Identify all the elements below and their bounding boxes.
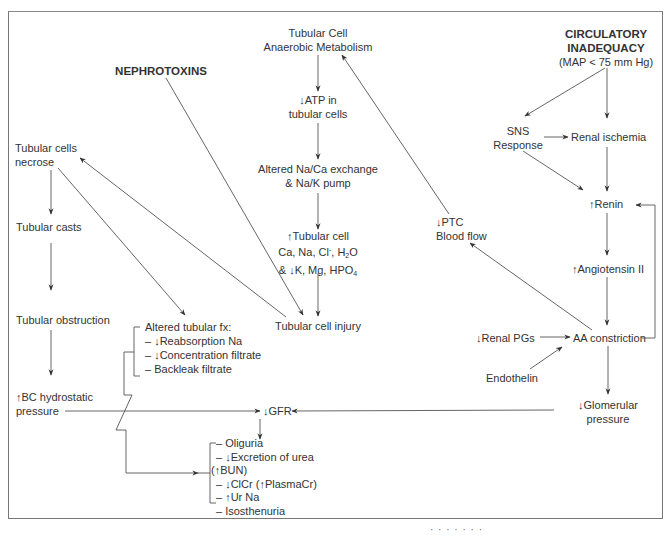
node-tubular-cell-ions: ↑Tubular cell Ca, Na, Cl-, H2O & ↓K, Mg,… (278, 229, 358, 281)
ions-sub-4: 4 (353, 270, 357, 277)
altered-fx-title: Altered tubular fx: (145, 320, 261, 334)
circulatory-title-1: CIRCULATORY (559, 27, 653, 41)
node-tubular-cell-injury: Tubular cell injury (275, 319, 361, 333)
outcome-item: – ↓ClCr (↑PlasmaCr) (216, 478, 317, 492)
ions-line-2a: Ca, Na, Cl (278, 246, 329, 258)
node-altered-exchange: Altered Na/Ca exchange & Na/K pump (258, 162, 378, 190)
outcome-item: – ↑Ur Na (216, 491, 317, 505)
sns-line-1: SNS (493, 124, 543, 138)
anaerobic-line-2: Anaerobic Metabolism (264, 40, 373, 54)
ions-line-3a: & ↓K, Mg, HPO (279, 264, 354, 276)
node-renin: ↑Renin (589, 197, 623, 211)
ions-line-3: & ↓K, Mg, HPO4 (278, 263, 358, 281)
altered-fx-item: – ↓Concentration filtrate (145, 348, 261, 362)
node-sns-response: SNS Response (493, 124, 543, 152)
node-angiotensin-ii: ↑Angiotensin II (572, 262, 644, 276)
outcome-item: (↑BUN) (211, 464, 317, 478)
node-endothelin: Endothelin (486, 371, 538, 385)
ions-line-2c: O (349, 246, 358, 258)
node-tubular-obstruction: Tubular obstruction (16, 313, 110, 327)
node-bc-hydrostatic-pressure: ↑BC hydrostatic pressure (16, 390, 93, 418)
ptc-line-2: Blood flow (436, 229, 487, 243)
outcome-item: – Oliguria (216, 437, 317, 451)
atp-line-1: ↓ATP in (289, 93, 348, 107)
altered-fx-item: – ↓Reabsorption Na (145, 334, 261, 348)
node-tubular-casts: Tubular casts (16, 220, 82, 234)
node-aa-constriction: AA constriction (573, 331, 646, 345)
node-renal-ischemia: Renal ischemia (571, 130, 646, 144)
node-gfr: ↓GFR (263, 404, 292, 418)
node-renal-pgs: ↓Renal PGs (476, 331, 535, 345)
exchange-line-2: & Na/K pump (258, 176, 378, 190)
ions-line-2b: , H (331, 246, 345, 258)
ions-line-1: ↑Tubular cell (278, 229, 358, 243)
bc-line-2: pressure (16, 404, 93, 418)
altered-fx-item: – Backleak filtrate (145, 362, 261, 376)
node-outcomes: – Oliguria – ↓Excretion of urea (↑BUN) –… (216, 437, 317, 518)
node-atp: ↓ATP in tubular cells (289, 93, 348, 121)
necrose-line-1: Tubular cells (15, 141, 77, 155)
ions-line-2: Ca, Na, Cl-, H2O (278, 243, 358, 263)
atp-line-2: tubular cells (289, 107, 348, 121)
glomerular-line-1: ↓Glomerular (578, 398, 638, 412)
circulatory-subtitle: (MAP < 75 mm Hg) (559, 55, 653, 69)
bc-line-1: ↑BC hydrostatic (16, 390, 93, 404)
outcome-item: – ↓Excretion of urea (216, 451, 317, 465)
circulatory-title-2: INADEQUACY (559, 41, 653, 55)
necrose-line-2: necrose (15, 155, 77, 169)
node-altered-tubular-fx: Altered tubular fx: – ↓Reabsorption Na –… (145, 320, 261, 376)
node-ptc-blood-flow: ↓PTC Blood flow (436, 215, 487, 243)
node-tubular-cells-necrose: Tubular cells necrose (15, 141, 77, 169)
cropped-caption-fragment: · · · · · · · (430, 524, 483, 535)
node-circulatory-inadequacy: CIRCULATORY INADEQUACY (MAP < 75 mm Hg) (559, 27, 653, 69)
sns-line-2: Response (493, 138, 543, 152)
node-nephrotoxins: NEPHROTOXINS (115, 64, 207, 78)
ptc-line-1: ↓PTC (436, 215, 487, 229)
anaerobic-line-1: Tubular Cell (264, 26, 373, 40)
exchange-line-1: Altered Na/Ca exchange (258, 162, 378, 176)
glomerular-line-2: pressure (578, 412, 638, 426)
node-anaerobic-metabolism: Tubular Cell Anaerobic Metabolism (264, 26, 373, 54)
outcome-item: – Isosthenuria (216, 505, 317, 519)
node-glomerular-pressure: ↓Glomerular pressure (578, 398, 638, 426)
